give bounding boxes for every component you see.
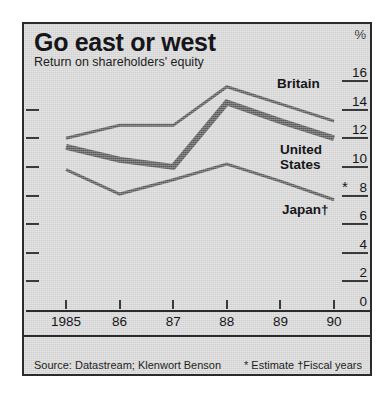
title-block: Go east or west Return on shareholders' … — [34, 28, 216, 70]
x-axis-tick-87 — [172, 300, 174, 309]
y-axis-tick-rule-16 — [342, 80, 368, 82]
x-axis-label-88: 88 — [219, 313, 234, 331]
x-axis-tick-89 — [279, 300, 281, 309]
y-axis-left-tick-8 — [26, 195, 39, 197]
y-axis-tick-label-16: 16 — [340, 66, 368, 80]
y-axis-left-tick-6 — [26, 223, 39, 225]
y-axis-tick-16: 16 — [340, 66, 368, 82]
y-axis-left-tick-10 — [26, 166, 39, 168]
series-label-united-states-line2: States — [280, 157, 322, 172]
x-axis-label-87: 87 — [166, 313, 181, 331]
x-axis-tick-90 — [333, 300, 335, 309]
x-axis-tick-86 — [119, 300, 121, 309]
x-axis-label-89: 89 — [273, 313, 288, 331]
page-title: Go east or west — [34, 28, 216, 56]
y-axis-tick-2: 2 — [340, 266, 368, 282]
series-label-united-states: United States — [280, 142, 322, 172]
y-axis-tick-4: 4 — [340, 238, 368, 254]
plot-area — [34, 55, 350, 310]
x-axis-label-1985: 1985 — [51, 313, 81, 331]
y-axis-left-ticks — [26, 24, 42, 346]
x-axis-tick-88 — [226, 300, 228, 309]
y-axis-tick-6: 6 — [340, 209, 368, 225]
y-axis-tick-rule-6 — [342, 223, 368, 225]
chart-subtitle: Return on shareholders' equity — [34, 55, 216, 70]
source-note: Source: Datastream; Klenwort Benson — [34, 359, 221, 372]
estimate-asterisk-marker: * — [342, 182, 348, 192]
y-axis-tick-label-12: 12 — [340, 123, 368, 137]
y-axis-tick-rule-14 — [342, 109, 368, 111]
y-axis-tick-label-14: 14 — [340, 95, 368, 109]
series-label-japan: Japan† — [282, 202, 329, 217]
x-axis-labels: 19858687888990 — [24, 313, 370, 333]
y-axis-left-tick-2 — [26, 280, 39, 282]
x-axis-line — [26, 310, 370, 312]
x-axis-tick-1985 — [65, 300, 67, 309]
y-axis-left-tick-14 — [26, 109, 39, 111]
footer: Source: Datastream; Klenwort Benson * Es… — [24, 337, 370, 374]
y-axis-tick-rule-2 — [342, 280, 368, 282]
series-label-britain: Britain — [277, 76, 320, 91]
y-axis-tick-label-10: 10 — [340, 152, 368, 166]
y-axis-tick-12: 12 — [340, 123, 368, 139]
x-axis-ticks — [24, 300, 370, 310]
y-axis-left-tick-4 — [26, 252, 39, 254]
series-label-united-states-line1: United — [280, 142, 322, 157]
chart-figure: Go east or west Return on shareholders' … — [22, 22, 372, 376]
y-axis-tick-label-2: 2 — [340, 266, 368, 280]
y-axis-left-tick-12 — [26, 137, 39, 139]
y-axis-tick-label-6: 6 — [340, 209, 368, 223]
series-lines-svg — [34, 55, 350, 310]
x-axis-label-90: 90 — [326, 313, 341, 331]
y-axis-tick-10: 10 — [340, 152, 368, 168]
y-axis-tick-rule-12 — [342, 137, 368, 139]
footnote-note: * Estimate †Fiscal years — [244, 359, 362, 372]
x-axis-label-86: 86 — [112, 313, 127, 331]
y-axis-tick-rule-10 — [342, 166, 368, 168]
y-axis-tick-14: 14 — [340, 95, 368, 111]
y-axis-tick-rule-4 — [342, 252, 368, 254]
y-axis-tick-label-4: 4 — [340, 238, 368, 252]
